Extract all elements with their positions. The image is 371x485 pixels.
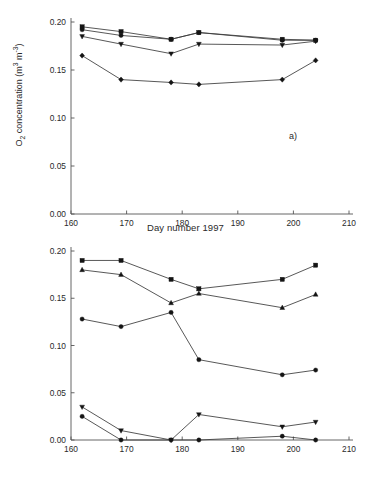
panel-b: 1601701801902002100.000.050.100.150.20 O… [0, 240, 371, 485]
data-point-series-5 [119, 438, 123, 442]
data-point-series-3 [169, 52, 174, 56]
x-tick-label: 160 [64, 444, 78, 454]
x-tick-label: 170 [120, 444, 134, 454]
data-point-series-3 [80, 317, 84, 321]
data-point-series-3 [197, 358, 201, 362]
y-tick-label: 0.20 [50, 246, 67, 256]
data-point-series-1 [169, 277, 173, 281]
axis-frame [71, 247, 353, 440]
data-point-series-5 [313, 438, 317, 442]
data-point-series-2 [280, 38, 284, 42]
data-point-series-1 [197, 287, 201, 291]
x-tick-label: 190 [231, 444, 245, 454]
data-point-series-1 [80, 258, 84, 262]
x-tick-label: 210 [342, 444, 356, 454]
y-tick-label: 0.00 [50, 435, 67, 445]
data-point-series-3 [169, 310, 173, 314]
series-line-series-3 [82, 312, 316, 374]
figure-two-panel-timeseries: 1601701801902002100.000.050.100.150.20 O… [0, 0, 371, 485]
panel-b-y-axis-title: O2 concentration (m3 m-3) [12, 470, 26, 485]
panel-a-x-axis-title: Day number 1997 [0, 222, 371, 233]
data-point-series-5 [280, 434, 284, 438]
data-point-series-2 [196, 291, 201, 295]
y-tick-label: 0.20 [50, 17, 67, 27]
data-point-series-1 [280, 277, 284, 281]
data-point-series-1 [314, 263, 318, 267]
y-tick-label: 0.05 [50, 388, 67, 398]
data-point-series-4 [80, 53, 85, 58]
data-point-series-3 [280, 373, 284, 377]
y-tick-label: 0.10 [50, 341, 67, 351]
data-point-series-1 [119, 258, 123, 262]
data-point-series-4 [169, 80, 174, 85]
data-point-series-4 [80, 405, 85, 409]
data-point-series-2 [169, 37, 173, 41]
x-tick-label: 180 [175, 444, 189, 454]
panel-a: 1601701801902002100.000.050.100.150.20 O… [0, 0, 371, 240]
data-point-series-1 [119, 30, 123, 34]
data-point-series-4 [280, 77, 285, 82]
panel-a-label: a) [289, 131, 297, 141]
data-point-series-3 [119, 324, 123, 328]
y-tick-label: 0.15 [50, 65, 67, 75]
y-tick-label: 0.00 [50, 209, 67, 219]
x-tick-label: 200 [286, 444, 300, 454]
data-point-series-4 [196, 82, 201, 87]
data-point-series-5 [197, 438, 201, 442]
series-line-series-1 [82, 260, 316, 288]
axis-frame [71, 18, 353, 214]
data-point-series-4 [313, 58, 318, 63]
data-point-series-2 [80, 267, 85, 271]
data-point-series-5 [169, 438, 173, 442]
data-point-series-5 [80, 414, 84, 418]
data-point-series-3 [280, 43, 285, 47]
panel-a-plot: 1601701801902002100.000.050.100.150.20 [0, 0, 371, 240]
data-point-series-2 [80, 28, 84, 32]
data-point-series-3 [313, 368, 317, 372]
panel-a-y-axis-title: O2 concentration (m3 m-3) [12, 0, 26, 195]
y-tick-label: 0.05 [50, 161, 67, 171]
y-tick-label: 0.15 [50, 293, 67, 303]
y-tick-label: 0.10 [50, 113, 67, 123]
data-point-series-2 [197, 30, 201, 34]
data-point-series-4 [119, 77, 124, 82]
data-point-series-4 [280, 425, 285, 429]
data-point-series-2 [313, 292, 318, 296]
panel-b-plot: 1601701801902002100.000.050.100.150.20 [0, 240, 371, 485]
data-point-series-2 [119, 33, 123, 37]
